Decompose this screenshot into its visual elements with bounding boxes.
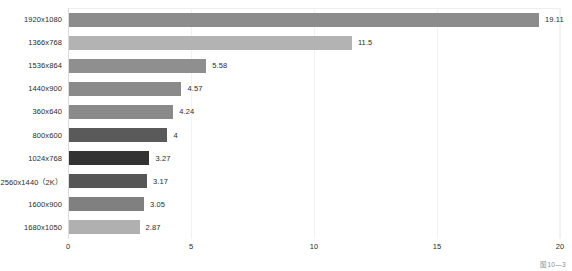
bar-value-label: 3.27 (155, 154, 170, 163)
bar-row: 1920x108019.11 (0, 8, 572, 31)
bar-value-label: 19.11 (545, 15, 564, 24)
bar[interactable] (69, 36, 352, 50)
bar[interactable] (69, 197, 144, 211)
category-label: 1600x900 (0, 200, 62, 209)
bar-row: 360x6404.24 (0, 100, 572, 123)
category-label: 1680x1050 (0, 223, 62, 232)
bar-value-label: 4.57 (187, 84, 202, 93)
bar[interactable] (69, 82, 181, 96)
bar[interactable] (69, 128, 167, 142)
x-tick-label: 15 (433, 242, 441, 251)
bar-group: 4.24 (69, 100, 194, 123)
bar-row: 1366x76811.5 (0, 31, 572, 54)
bar-group: 19.11 (69, 8, 564, 31)
bar-value-label: 2.87 (146, 223, 161, 232)
bar-value-label: 3.05 (150, 200, 165, 209)
bar-group: 3.17 (69, 170, 168, 193)
category-label: 1366x768 (0, 38, 62, 47)
bar-group: 4.57 (69, 77, 202, 100)
bar-group: 3.27 (69, 147, 170, 170)
bar[interactable] (69, 105, 173, 119)
bar-row: 800x6004 (0, 124, 572, 147)
bar-chart: 1920x108019.111366x76811.51536x8645.5814… (0, 0, 572, 271)
bar-value-label: 11.5 (358, 38, 372, 47)
x-tick-label: 10 (310, 242, 318, 251)
bar-value-label: 4.24 (179, 107, 194, 116)
category-label: 1440x900 (0, 84, 62, 93)
x-tick-label: 20 (556, 242, 564, 251)
bar-rows: 1920x108019.111366x76811.51536x8645.5814… (0, 8, 572, 239)
bar-group: 5.58 (69, 54, 227, 77)
figure-caption: 图10—3 (540, 259, 566, 269)
bar-value-label: 5.58 (212, 61, 227, 70)
bar-value-label: 3.17 (153, 177, 168, 186)
x-axis: 05101520 (0, 239, 572, 257)
bar-row: 1536x8645.58 (0, 54, 572, 77)
bar-group: 11.5 (69, 31, 372, 54)
bar-row: 1440x9004.57 (0, 77, 572, 100)
bar-group: 4 (69, 124, 178, 147)
bar-row: 1600x9003.05 (0, 193, 572, 216)
x-tick-label: 5 (189, 242, 193, 251)
category-label: 1536x864 (0, 61, 62, 70)
bar[interactable] (69, 174, 147, 188)
category-label: 360x640 (0, 107, 62, 116)
category-label: 1024x768 (0, 154, 62, 163)
x-tick-label: 0 (66, 242, 70, 251)
bar-group: 3.05 (69, 193, 165, 216)
category-label: 800x600 (0, 131, 62, 140)
bar-row: 1680x10502.87 (0, 216, 572, 239)
bar[interactable] (69, 13, 539, 27)
bar-row: 1024x7683.27 (0, 147, 572, 170)
bar[interactable] (69, 220, 140, 234)
bar-row: 2560x1440（2K）3.17 (0, 170, 572, 193)
category-label: 2560x1440（2K） (0, 176, 62, 187)
bar-group: 2.87 (69, 216, 161, 239)
bar[interactable] (69, 59, 206, 73)
category-label: 1920x1080 (0, 15, 62, 24)
bar-value-label: 4 (173, 131, 177, 140)
bar[interactable] (69, 151, 149, 165)
